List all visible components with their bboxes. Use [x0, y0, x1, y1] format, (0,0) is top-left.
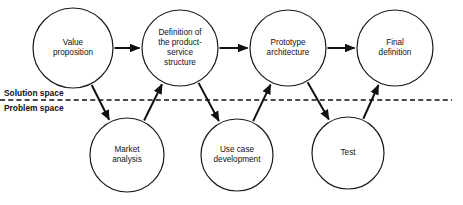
process-diagram: Solution spaceProblem space Valueproposi… [0, 0, 463, 205]
node-product-service-structure[interactable]: Definition ofthe product-servicestructur… [142, 10, 218, 86]
divider-layer: Solution spaceProblem space [0, 88, 452, 113]
connector-test-to-fd [363, 85, 378, 119]
connector-use-case-to-pa [253, 85, 270, 122]
node-label-prototype-architecture: Prototypearchitecture [267, 38, 310, 57]
connector-pa-to-test [308, 82, 329, 119]
node-value-proposition[interactable]: Valueproposition [33, 8, 113, 88]
node-prototype-architecture[interactable]: Prototypearchitecture [250, 10, 326, 86]
node-final-definition[interactable]: Finaldefinition [357, 10, 433, 86]
connector-market-analysis-to-pss [144, 84, 162, 120]
node-label-test: Test [340, 148, 356, 157]
problem-space-label: Problem space [4, 103, 64, 113]
connector-layer [92, 48, 379, 121]
solution-space-label: Solution space [4, 88, 64, 98]
connector-pss-to-use-case [199, 83, 219, 121]
node-label-use-case-development: Use casedevelopment [214, 145, 262, 164]
node-label-market-analysis: Marketanalysis [112, 145, 142, 164]
connector-vp-to-market-analysis [92, 85, 110, 120]
node-test[interactable]: Test [312, 117, 384, 189]
node-market-analysis[interactable]: Marketanalysis [90, 118, 164, 192]
node-use-case-development[interactable]: Use casedevelopment [201, 119, 273, 191]
diagram-canvas: Solution spaceProblem space Valueproposi… [0, 0, 463, 205]
